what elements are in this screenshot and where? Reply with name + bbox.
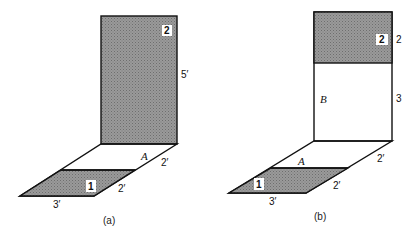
area-B-label: B (320, 93, 327, 105)
width-label: 3′ (53, 199, 61, 210)
surface-1-floor (229, 168, 348, 193)
caption-b: (b) (314, 211, 326, 222)
height-top-label: 2 (396, 34, 402, 45)
depth-back-label: 2′ (161, 157, 169, 168)
height-bottom-label: 3 (396, 93, 402, 104)
surface-1-label: 1 (256, 179, 262, 190)
surface-2-label: 2 (164, 25, 170, 36)
panel-a: 2 1 5′ A 2′ 2′ 3′ (a) (20, 16, 189, 226)
depth-front-label: 2′ (118, 183, 126, 194)
surface-1-label: 1 (88, 181, 94, 192)
caption-a: (a) (103, 215, 115, 226)
view-factor-diagram: 2 1 5′ A 2′ 2′ 3′ (a) 2 1 2 3 B A 2′ 2′ (0, 0, 418, 236)
depth-back-label: 2′ (377, 153, 385, 164)
area-A-label: A (140, 150, 148, 162)
panel-b: 2 1 2 3 B A 2′ 2′ 3′ (b) (229, 12, 402, 222)
surface-2-label: 2 (379, 34, 385, 45)
depth-front-label: 2′ (333, 180, 341, 191)
width-label: 3′ (269, 196, 277, 207)
area-A-label: A (297, 155, 305, 167)
height-label: 5′ (181, 69, 189, 80)
